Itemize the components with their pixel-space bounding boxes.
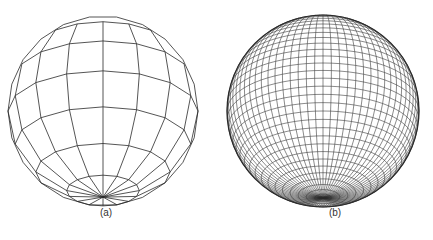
panel-a-coarse-sphere: (a) — [0, 0, 216, 240]
caption-b: (b) — [315, 207, 355, 218]
panel-b-fine-sphere: (b) — [216, 0, 433, 240]
fine-sphere-wireframe — [216, 0, 433, 240]
caption-a: (a) — [86, 207, 126, 218]
coarse-sphere-wireframe — [0, 0, 216, 240]
